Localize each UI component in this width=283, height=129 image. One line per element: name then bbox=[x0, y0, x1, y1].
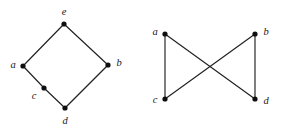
bowtie-graph-edges bbox=[165, 34, 255, 99]
node-b bbox=[105, 62, 110, 67]
node-label-a: a bbox=[152, 27, 157, 38]
edge-a-e bbox=[23, 24, 64, 66]
graph-canvas bbox=[0, 0, 283, 129]
node-c bbox=[162, 96, 167, 101]
edge-c-d bbox=[44, 88, 65, 108]
node-label-b: b bbox=[116, 58, 121, 69]
node-label-b: b bbox=[263, 27, 268, 38]
edge-a-c bbox=[23, 66, 44, 88]
node-a bbox=[162, 31, 167, 36]
node-d bbox=[62, 105, 67, 110]
node-c bbox=[41, 85, 46, 90]
node-label-d: d bbox=[62, 116, 67, 127]
edge-e-b bbox=[64, 24, 108, 65]
node-label-c: c bbox=[32, 91, 37, 102]
node-a bbox=[20, 63, 25, 68]
node-label-e: e bbox=[62, 7, 67, 18]
edges-layer bbox=[23, 24, 255, 108]
node-label-d: d bbox=[263, 96, 268, 107]
node-b bbox=[252, 31, 257, 36]
graph-figure: eabcdabcd bbox=[0, 0, 283, 129]
node-label-c: c bbox=[153, 95, 158, 106]
edge-b-d bbox=[65, 65, 108, 108]
node-label-a: a bbox=[10, 60, 15, 71]
nodes-layer bbox=[20, 21, 257, 110]
node-d bbox=[252, 96, 257, 101]
node-e bbox=[61, 21, 66, 26]
